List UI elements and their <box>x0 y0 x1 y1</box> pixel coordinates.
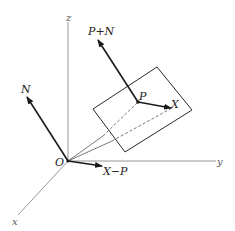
axes <box>18 22 216 215</box>
p-label: P <box>138 90 147 103</box>
n-label: N <box>20 83 31 96</box>
plane-normal-diagram: z y x O N P+N P X X−P <box>0 0 235 231</box>
x-minus-p-label: X−P <box>102 165 128 178</box>
x-point-label: X <box>170 98 180 111</box>
origin-rays <box>68 102 172 161</box>
ray-o-to-p-dashed <box>103 102 138 136</box>
vector-n <box>27 97 68 161</box>
x-axis <box>18 161 68 215</box>
x-axis-label: x <box>12 216 18 227</box>
origin-label: O <box>55 156 64 169</box>
origin-dot <box>66 159 69 162</box>
y-axis-label: y <box>216 156 223 167</box>
ray-o-to-x-dashed <box>112 108 172 141</box>
p-plus-n-label: P+N <box>87 25 115 38</box>
vector-x-minus-p <box>68 161 102 166</box>
ray-o-to-p-solid <box>68 136 103 161</box>
z-axis-label: z <box>65 12 72 23</box>
ray-o-to-x-solid <box>68 141 112 161</box>
